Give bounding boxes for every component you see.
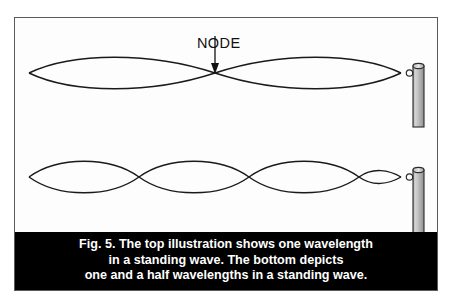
figure-root: NODE Fig. 5. The top illustration shows … <box>0 0 451 304</box>
bottom-pole <box>406 167 424 234</box>
top-pole-cap <box>413 63 424 68</box>
bottom-standing-wave <box>29 161 401 193</box>
bottom-pole-shaft <box>413 170 424 234</box>
figure-frame: NODE Fig. 5. The top illustration shows … <box>14 17 438 291</box>
caption-line-1: Fig. 5. The top illustration shows one w… <box>79 237 373 253</box>
top-pole-shaft <box>413 66 424 127</box>
node-annotation-label: NODE <box>197 35 241 51</box>
caption-line-2: in a standing wave. The bottom depicts <box>108 253 343 269</box>
top-pole-string-ring <box>406 70 412 76</box>
top-pole <box>406 63 424 127</box>
bottom-wave-lower-envelope <box>29 161 401 193</box>
illustration-area: NODE <box>15 18 437 234</box>
figure-caption: Fig. 5. The top illustration shows one w… <box>15 232 437 290</box>
bottom-wave-upper-envelope <box>29 161 401 193</box>
bottom-pole-string-ring <box>406 174 412 180</box>
caption-line-3: one and a half wavelengths in a standing… <box>85 268 368 284</box>
bottom-pole-cap <box>413 167 424 172</box>
